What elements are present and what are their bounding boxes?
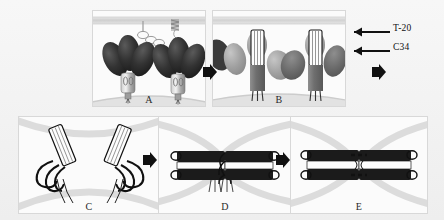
helix-bar-light — [359, 161, 411, 169]
panel-e: E — [290, 116, 428, 214]
six-helix-bundle-right — [359, 150, 417, 180]
panel-a-graphic — [93, 11, 205, 106]
helix-bar — [177, 169, 225, 180]
helix-bar — [225, 169, 273, 180]
helix-bar-light — [225, 162, 273, 169]
prehairpin-intermediate-right — [305, 30, 325, 101]
t20-callout-arrow — [344, 24, 390, 42]
target-membrane — [213, 17, 345, 24]
panel-e-graphic — [291, 117, 427, 213]
target-membrane — [93, 17, 205, 24]
flow-arrow-d-to-e — [276, 152, 290, 168]
c34-callout-arrow — [344, 43, 390, 61]
panel-d: D — [158, 116, 292, 214]
c34-label: C34 — [393, 42, 409, 52]
panel-a-letter: A — [93, 94, 205, 105]
panel-c-letter: C — [19, 201, 159, 212]
helix-bar — [225, 151, 273, 162]
panel-d-letter: D — [159, 201, 291, 212]
flow-arrow-a-to-b — [203, 64, 217, 80]
figure-hiv-fusion-mechanism: A — [0, 0, 444, 220]
gp41-stalk — [308, 65, 323, 91]
prehairpin-intermediate-left — [247, 30, 267, 101]
flow-arrow-b-to-next — [372, 64, 386, 80]
helix-bar — [177, 151, 225, 162]
panel-e-letter: E — [291, 201, 427, 212]
flow-arrow-c-to-d — [143, 152, 157, 168]
panel-b-graphic — [213, 11, 345, 106]
panel-b: B — [212, 10, 346, 107]
helix-bar-light — [307, 161, 359, 169]
t20-label: T-20 — [393, 23, 411, 33]
panel-d-graphic — [159, 117, 291, 213]
panel-c-graphic — [19, 117, 159, 213]
c-helix-loops — [115, 161, 143, 191]
target-membrane — [19, 119, 159, 134]
panel-c: C — [18, 116, 160, 214]
c-helix-loops — [37, 161, 65, 191]
panel-a: A — [92, 10, 206, 107]
helix-bar-light — [177, 162, 225, 169]
cd4-receptor — [138, 21, 165, 47]
gp41-stalk — [250, 65, 265, 91]
six-helix-bundle-left — [301, 150, 359, 180]
panel-b-letter: B — [213, 94, 345, 105]
